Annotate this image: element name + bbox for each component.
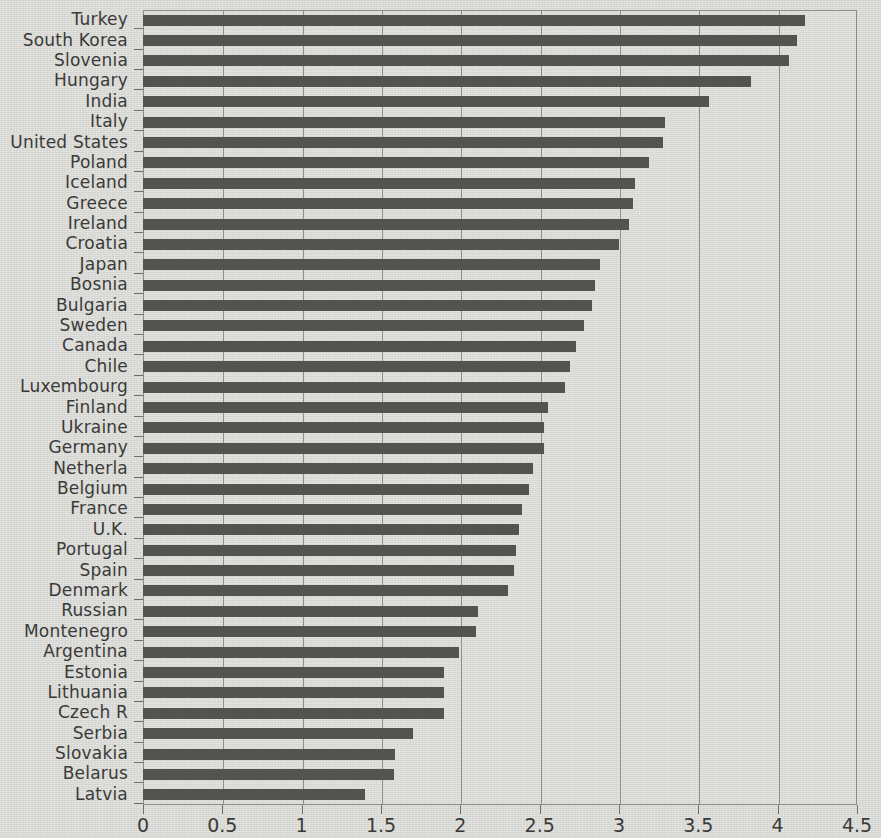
bars-group bbox=[143, 10, 857, 805]
bar bbox=[143, 117, 665, 128]
y-axis-tick-label: Spain bbox=[80, 561, 129, 579]
x-axis-tick-mark bbox=[619, 805, 620, 814]
x-axis-tick-label: 1 bbox=[296, 814, 308, 836]
y-axis-tick-mark bbox=[134, 293, 143, 294]
y-axis-tick-mark bbox=[134, 191, 143, 192]
y-axis-tick-label: Czech R bbox=[58, 703, 128, 721]
y-axis-tick-label: Russian bbox=[61, 601, 128, 619]
y-axis-tick-mark bbox=[134, 640, 143, 641]
y-axis-tick-label: Germany bbox=[48, 438, 128, 456]
y-axis-tick-mark bbox=[134, 558, 143, 559]
y-axis-tick-label: Serbia bbox=[73, 724, 128, 742]
y-axis-tick-label: Luxembourg bbox=[20, 377, 128, 395]
y-axis-tick-label: Bosnia bbox=[70, 275, 128, 293]
x-axis-tick-label: 0.5 bbox=[207, 814, 237, 836]
x-axis-tick-label: 2 bbox=[454, 814, 466, 836]
y-axis-tick-mark bbox=[134, 660, 143, 661]
y-axis-tick-label: India bbox=[85, 92, 128, 110]
x-axis-tick-mark bbox=[381, 805, 382, 814]
bar bbox=[143, 361, 570, 372]
bar bbox=[143, 484, 529, 495]
y-axis-tick-mark bbox=[134, 375, 143, 376]
y-axis-tick-mark bbox=[134, 721, 143, 722]
y-axis-tick-mark bbox=[134, 782, 143, 783]
x-axis-tick-label: 4 bbox=[772, 814, 784, 836]
y-axis-tick-mark bbox=[134, 89, 143, 90]
y-axis-tick-label: Ukraine bbox=[61, 418, 128, 436]
y-axis-tick-label: France bbox=[70, 499, 128, 517]
y-axis-tick-label: Poland bbox=[70, 153, 128, 171]
y-axis-tick-label: Turkey bbox=[71, 10, 128, 28]
x-axis-tick-label: 2.5 bbox=[525, 814, 555, 836]
bar bbox=[143, 443, 544, 454]
y-axis-tick-label: Greece bbox=[66, 194, 128, 212]
y-axis-tick-mark bbox=[134, 742, 143, 743]
bar bbox=[143, 728, 413, 739]
y-axis-tick-label: South Korea bbox=[23, 31, 128, 49]
bar bbox=[143, 178, 635, 189]
y-axis-tick-mark bbox=[134, 232, 143, 233]
bar bbox=[143, 545, 516, 556]
x-axis-tick-label: 0 bbox=[137, 814, 149, 836]
bar bbox=[143, 504, 522, 515]
y-axis-tick-label: Italy bbox=[90, 112, 128, 130]
y-axis-tick-label: Japan bbox=[80, 255, 128, 273]
bar bbox=[143, 708, 444, 719]
x-axis-tick-label: 3 bbox=[613, 814, 625, 836]
y-axis-tick-label: Netherla bbox=[53, 459, 128, 477]
y-axis-tick-label: Slovakia bbox=[55, 744, 128, 762]
y-axis-tick-mark bbox=[134, 354, 143, 355]
y-axis-tick-mark bbox=[134, 579, 143, 580]
bar bbox=[143, 463, 533, 474]
x-axis-tick-mark bbox=[540, 805, 541, 814]
y-axis-tick-mark bbox=[134, 762, 143, 763]
y-axis-tick-label: Portugal bbox=[56, 540, 128, 558]
bar bbox=[143, 55, 789, 66]
bar bbox=[143, 76, 751, 87]
y-axis-tick-mark bbox=[134, 69, 143, 70]
y-axis-category-labels: TurkeySouth KoreaSloveniaHungaryIndiaIta… bbox=[0, 10, 143, 805]
y-axis-tick-mark bbox=[134, 599, 143, 600]
y-axis-tick-label: Latvia bbox=[75, 785, 128, 803]
bar bbox=[143, 382, 565, 393]
bar bbox=[143, 565, 514, 576]
x-axis-tick-mark bbox=[302, 805, 303, 814]
x-axis-tick-mark bbox=[698, 805, 699, 814]
bar bbox=[143, 341, 576, 352]
bar bbox=[143, 606, 478, 617]
y-axis-tick-mark bbox=[134, 456, 143, 457]
y-axis-tick-mark bbox=[134, 334, 143, 335]
y-axis-tick-label: Chile bbox=[84, 357, 128, 375]
y-axis-tick-mark bbox=[134, 171, 143, 172]
y-axis-tick-mark bbox=[134, 497, 143, 498]
y-axis-tick-label: United States bbox=[10, 133, 128, 151]
bar bbox=[143, 789, 365, 800]
x-axis-tick-label: 3.5 bbox=[683, 814, 713, 836]
y-axis-tick-mark bbox=[134, 477, 143, 478]
y-axis-tick-label: Montenegro bbox=[24, 622, 128, 640]
y-axis-tick-mark bbox=[134, 681, 143, 682]
bar bbox=[143, 300, 592, 311]
bar bbox=[143, 219, 629, 230]
page-root: TurkeySouth KoreaSloveniaHungaryIndiaIta… bbox=[0, 0, 881, 838]
x-axis-tick-mark bbox=[778, 805, 779, 814]
y-axis-tick-mark bbox=[134, 803, 143, 804]
bar bbox=[143, 749, 395, 760]
bar bbox=[143, 15, 805, 26]
x-axis-tick-label: 4.5 bbox=[842, 814, 872, 836]
y-axis-tick-label: Lithuania bbox=[47, 683, 128, 701]
bar bbox=[143, 198, 633, 209]
y-axis-tick-mark bbox=[134, 130, 143, 131]
bar bbox=[143, 626, 476, 637]
x-axis-tick-mark bbox=[460, 805, 461, 814]
y-axis-tick-label: Bulgaria bbox=[56, 296, 128, 314]
y-axis-tick-label: Ireland bbox=[68, 214, 128, 232]
y-axis-tick-mark bbox=[134, 517, 143, 518]
bar bbox=[143, 157, 649, 168]
y-axis-tick-mark bbox=[134, 416, 143, 417]
y-axis-tick-label: Slovenia bbox=[54, 51, 128, 69]
y-axis-tick-mark bbox=[134, 252, 143, 253]
y-axis-tick-mark bbox=[134, 28, 143, 29]
y-axis-tick-label: Croatia bbox=[65, 234, 128, 252]
y-axis-tick-mark bbox=[134, 273, 143, 274]
